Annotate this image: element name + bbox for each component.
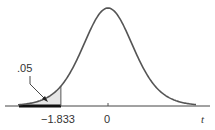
tail-area-label: .05 — [17, 63, 32, 74]
zero-label: 0 — [104, 114, 110, 125]
density-curve — [18, 8, 196, 105]
annotation-arrow — [30, 76, 46, 100]
critical-value-label: −1.833 — [41, 114, 75, 125]
axis-label-t: t — [201, 114, 204, 125]
shaded-tail-area — [18, 86, 61, 106]
